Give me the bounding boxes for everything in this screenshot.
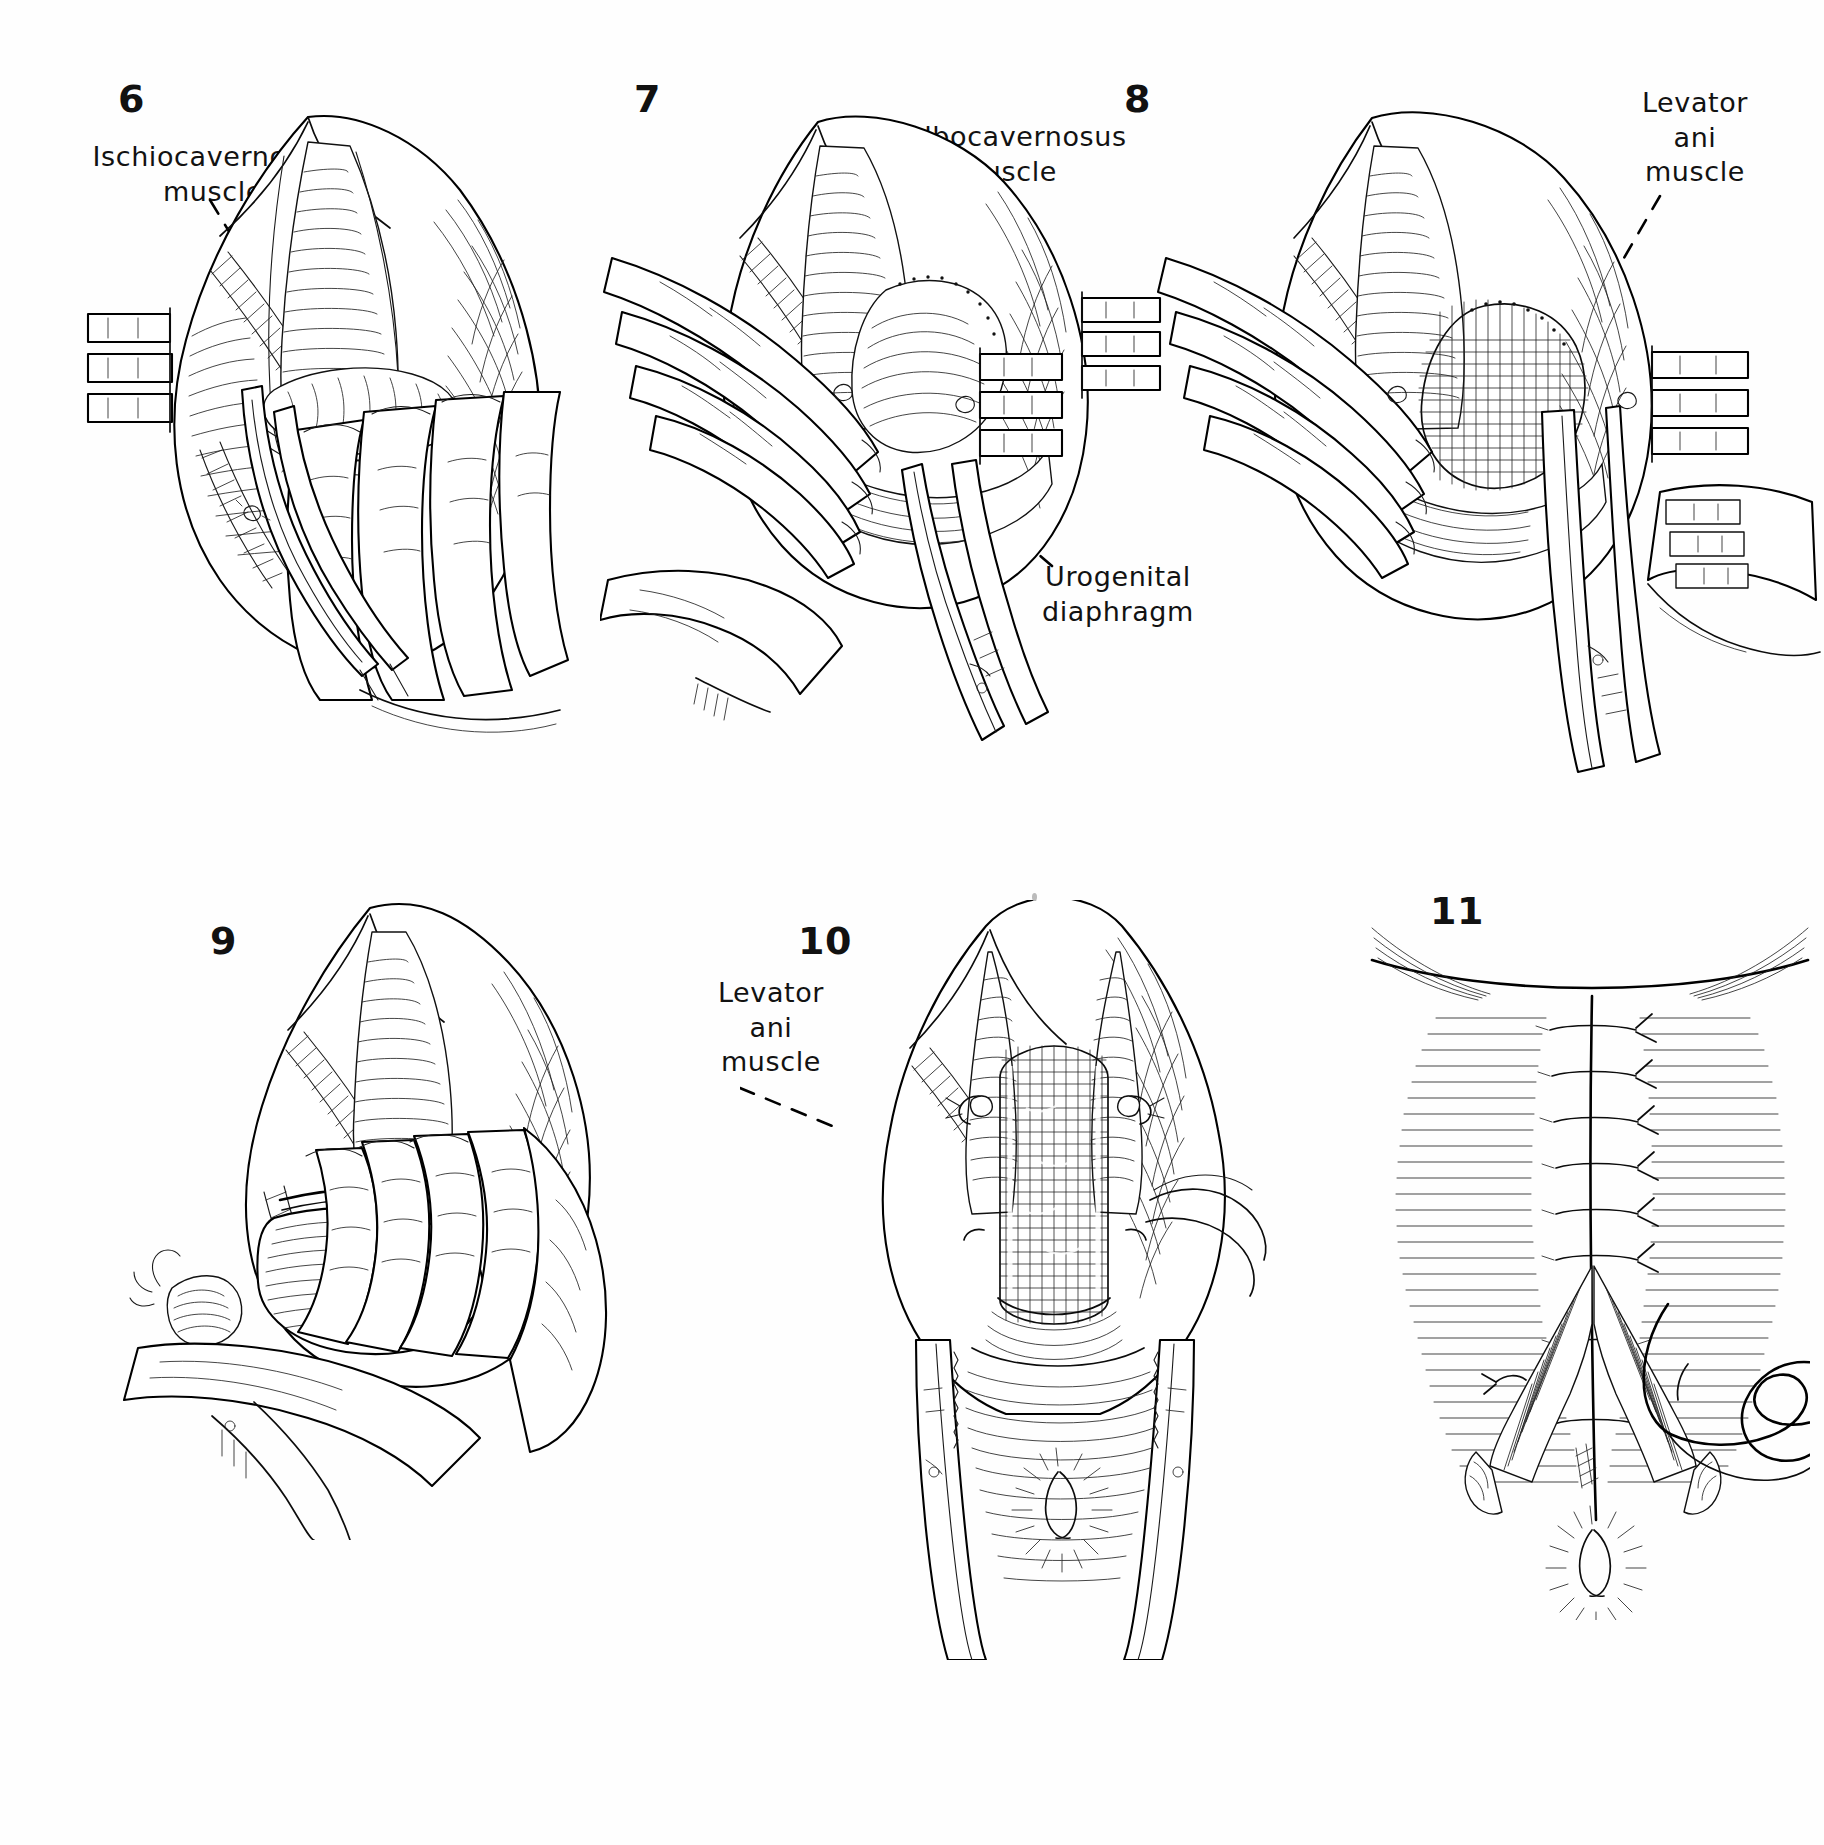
illustration-plate: 6 Ischiocavernosus muscle xyxy=(0,0,1824,1845)
panel-10-artwork xyxy=(740,900,1360,1660)
panel-6: 6 Ischiocavernosus muscle xyxy=(60,60,620,740)
panel-9-vessel-cluster xyxy=(130,1250,242,1346)
panel-6-retractor xyxy=(88,308,172,432)
print-speck xyxy=(1032,893,1037,901)
panel-11: 11 xyxy=(1370,900,1810,1620)
panel-11-artwork xyxy=(1370,900,1810,1620)
panel-6-artwork xyxy=(60,60,620,740)
panel-8-retractor-right xyxy=(1652,346,1748,462)
panel-8-hand-right xyxy=(1648,485,1820,655)
panel-8-artwork xyxy=(1100,60,1824,800)
panel-10: 10 Levator ani muscle xyxy=(740,900,1360,1660)
panel-7-retractor xyxy=(980,348,1062,464)
panel-8: 8 Levator ani muscle xyxy=(1100,60,1824,800)
panel-7-hand xyxy=(600,571,842,720)
panel-9-artwork xyxy=(80,900,720,1540)
panel-11-anus xyxy=(1546,1506,1646,1620)
panel-9: 9 xyxy=(80,900,720,1540)
